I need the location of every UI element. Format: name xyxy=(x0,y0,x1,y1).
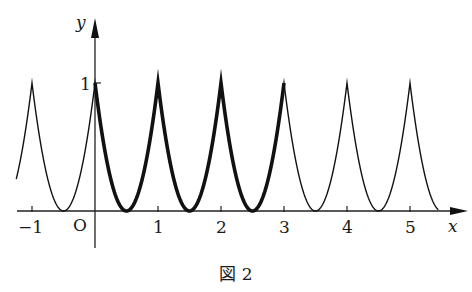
axes xyxy=(17,18,468,248)
x-tick-label: 3 xyxy=(279,219,290,236)
x-axis-arrow-icon xyxy=(450,207,468,215)
x-tick-label: 2 xyxy=(216,219,227,236)
y-axis-arrow-icon xyxy=(91,18,99,38)
y-tick-label-1: 1 xyxy=(80,76,91,93)
x-tick-label: −1 xyxy=(18,219,43,236)
origin-label: O xyxy=(73,217,87,234)
curve-bold-segment xyxy=(95,83,284,211)
curve-thin xyxy=(16,83,438,211)
x-axis-label: x xyxy=(448,218,458,235)
curves xyxy=(16,83,438,211)
x-tick-label: 4 xyxy=(342,219,353,236)
x-tick-label: 5 xyxy=(405,219,416,236)
y-axis-label: y xyxy=(76,14,86,31)
plot-area xyxy=(0,0,472,250)
figure-caption: 図 2 xyxy=(0,260,472,285)
x-tick-label: 1 xyxy=(153,219,164,236)
